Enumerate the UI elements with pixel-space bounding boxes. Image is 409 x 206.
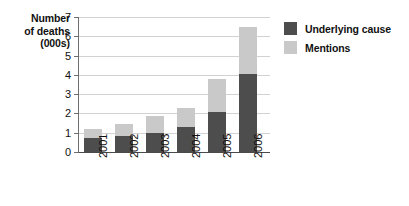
- stacked-bar-chart: Number of deaths (000s) 01234567 2001200…: [0, 0, 409, 206]
- y-tick-mark-4: [74, 75, 79, 76]
- y-tick-mark-2: [74, 113, 79, 114]
- x-tick-label-2002: 2002: [129, 114, 140, 158]
- bar-segment-mentions-2006[interactable]: [239, 27, 257, 74]
- legend-swatch-icon-0: [284, 22, 297, 35]
- y-tick-label-1: 1: [58, 128, 71, 139]
- y-tick-label-4: 4: [58, 70, 71, 81]
- legend-label-0: Underlying cause: [305, 23, 391, 35]
- y-tick-label-0: 0: [58, 147, 71, 158]
- y-tick-mark-1: [74, 133, 79, 134]
- y-tick-mark-7: [74, 17, 79, 18]
- y-tick-label-5: 5: [58, 51, 71, 62]
- y-tick-mark-0: [74, 152, 79, 153]
- y-tick-label-2: 2: [58, 108, 71, 119]
- y-tick-label-3: 3: [58, 89, 71, 100]
- bar-segment-mentions-2005[interactable]: [208, 79, 226, 112]
- legend-item-underlying-cause[interactable]: Underlying cause: [284, 22, 409, 35]
- y-tick-mark-3: [74, 94, 79, 95]
- x-tick-label-2006: 2006: [253, 114, 264, 158]
- legend-swatch-icon-1: [284, 41, 297, 54]
- y-tick-label-7: 7: [58, 12, 71, 23]
- y-tick-label-6: 6: [58, 31, 71, 42]
- y-tick-mark-6: [74, 36, 79, 37]
- x-tick-label-2001: 2001: [98, 114, 109, 158]
- x-tick-label-2005: 2005: [222, 114, 233, 158]
- x-tick-label-2003: 2003: [160, 114, 171, 158]
- legend-item-mentions[interactable]: Mentions: [284, 41, 409, 54]
- y-tick-mark-5: [74, 56, 79, 57]
- legend-label-1: Mentions: [305, 42, 350, 54]
- chart-legend: Underlying causeMentions: [284, 22, 409, 60]
- x-tick-label-2004: 2004: [191, 114, 202, 158]
